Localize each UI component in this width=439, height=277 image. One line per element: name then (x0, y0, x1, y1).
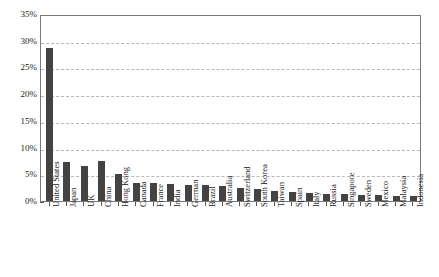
x-tick-mark (395, 202, 396, 206)
x-tick-mark (378, 202, 379, 206)
x-tick-mark (291, 202, 292, 206)
x-tick-mark (239, 202, 240, 206)
chart-root: 0%5%10%15%20%25%30%35% United StatesJapa… (0, 0, 439, 277)
x-tick-label: United States (52, 161, 61, 207)
x-tick-label: Russia (329, 184, 338, 207)
x-tick-label: Brazil (208, 186, 217, 207)
y-tick-label: 30% (21, 37, 38, 46)
x-tick-label: India (173, 190, 182, 207)
x-tick-mark (153, 202, 154, 206)
x-tick-label: Canada (139, 182, 148, 208)
x-tick-mark (170, 202, 171, 206)
x-tick-mark (412, 202, 413, 206)
x-tick-label: Singapore (347, 173, 356, 207)
x-tick-label: Australia (225, 176, 234, 207)
gridline (41, 123, 420, 124)
x-tick-label: UK (87, 195, 96, 207)
y-tick-label: 25% (21, 63, 38, 72)
x-tick-label: Japan (69, 188, 78, 207)
x-tick-label: Hong Kong (121, 167, 130, 207)
x-tick-mark (326, 202, 327, 206)
plot-area (40, 15, 421, 202)
x-tick-mark (66, 202, 67, 206)
x-tick-label: Italy (312, 191, 321, 207)
y-tick-label: 10% (21, 144, 38, 153)
x-tick-label: China (104, 187, 113, 207)
x-tick-label: South Korea (260, 164, 269, 207)
y-tick-label: 0% (25, 197, 37, 206)
y-tick-label: 20% (21, 90, 38, 99)
x-tick-mark (256, 202, 257, 206)
y-tick-mark (40, 202, 44, 203)
x-tick-label: Taiwan (277, 182, 286, 207)
x-tick-mark (118, 202, 119, 206)
x-tick-mark (308, 202, 309, 206)
x-tick-mark (205, 202, 206, 206)
x-tick-mark (135, 202, 136, 206)
gridline (41, 69, 420, 70)
x-tick-mark (274, 202, 275, 206)
y-tick-label: 15% (21, 117, 38, 126)
x-tick-mark (83, 202, 84, 206)
x-tick-mark (49, 202, 50, 206)
x-tick-label: France (156, 184, 165, 207)
x-tick-label: Mexico (381, 181, 390, 207)
x-tick-mark (360, 202, 361, 206)
gridline (41, 150, 420, 151)
x-tick-label: Malaysia (399, 176, 408, 207)
x-tick-label: Switzerland (243, 166, 252, 207)
y-tick-label: 35% (21, 10, 38, 19)
x-tick-label: Indonesia (416, 174, 425, 207)
x-tick-mark (343, 202, 344, 206)
x-tick-label: Spain (295, 188, 304, 207)
y-tick-label: 5% (25, 170, 37, 179)
x-tick-label: Sweden (364, 180, 373, 207)
x-tick-mark (101, 202, 102, 206)
x-tick-mark (187, 202, 188, 206)
gridline (41, 43, 420, 44)
x-tick-label: German (191, 180, 200, 207)
x-tick-mark (222, 202, 223, 206)
gridline (41, 96, 420, 97)
